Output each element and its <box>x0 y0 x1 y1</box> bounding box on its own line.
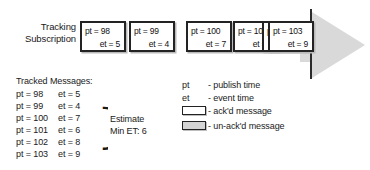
estimate-annotation: Estimate Min ET: 6 <box>110 113 147 137</box>
tracked-publish-time: pt = 100 <box>16 112 58 124</box>
tracked-event-time: et = 7 <box>58 112 94 124</box>
message-event-time: et = 7 <box>191 38 227 52</box>
tracked-message-row: pt = 100et = 7 <box>16 112 94 124</box>
estimate-brace-icon: } <box>97 103 108 150</box>
message-box: pt = 100 et = 7 <box>186 21 232 52</box>
legend-row-ackd: - ack'd message <box>182 105 284 120</box>
message-box: pt = 99 et = 4 <box>129 21 175 52</box>
tracked-event-time: et = 5 <box>58 88 94 100</box>
legend-desc-pt: - publish time <box>208 79 260 91</box>
message-event-time: et = 5 <box>85 38 121 52</box>
tracked-message-row: pt = 103et = 9 <box>16 148 94 160</box>
tracked-message-row: pt = 98et = 5 <box>16 88 94 100</box>
estimate-label: Estimate <box>110 113 147 125</box>
message-event-time: et = 4 <box>134 38 170 52</box>
estimate-value: Min ET: 6 <box>110 125 147 137</box>
legend-key-et: et <box>182 92 208 104</box>
message-box: pt = 98 et = 5 <box>80 21 126 52</box>
tracked-message-row: pt = 102et = 8 <box>16 136 94 148</box>
legend-row-et: et- event time <box>182 92 284 105</box>
message-publish-time: pt = 100 <box>191 25 227 39</box>
legend-key-pt: pt <box>182 79 208 91</box>
legend-desc-ackd: - ack'd message <box>208 105 272 117</box>
legend-desc-unackd: - un-ack'd message <box>208 120 284 132</box>
tracked-message-row: pt = 99et = 4 <box>16 100 94 112</box>
tracked-event-time: et = 6 <box>58 124 94 136</box>
tracked-event-time: et = 8 <box>58 136 94 148</box>
tracked-publish-time: pt = 101 <box>16 124 58 136</box>
tracking-label-line1: Tracking <box>10 21 76 33</box>
tracking-subscription-label: Tracking Subscription <box>10 21 76 44</box>
tracked-publish-time: pt = 98 <box>16 88 58 100</box>
legend-row-pt: pt- publish time <box>182 79 284 92</box>
message-publish-time: pt = 103 <box>273 25 309 39</box>
message-publish-time: pt = 98 <box>85 25 121 39</box>
tracked-publish-time: pt = 99 <box>16 100 58 112</box>
legend: pt- publish time et- event time - ack'd … <box>182 79 284 135</box>
unackd-message-swatch-icon <box>182 121 206 130</box>
tracked-event-time: et = 4 <box>58 100 94 112</box>
timeline-arrow-icon <box>312 12 365 78</box>
timeline-row: Tracking Subscription pt = 98 et = 5 pt … <box>0 0 370 86</box>
message-box: pt = 103 et = 9 <box>268 21 314 52</box>
tracking-subscription-diagram: Tracking Subscription pt = 98 et = 5 pt … <box>0 0 370 170</box>
tracked-publish-time: pt = 103 <box>16 148 58 160</box>
tracked-messages-list: Tracked Messages: pt = 98et = 5 pt = 99e… <box>16 75 94 160</box>
tracking-label-line2: Subscription <box>10 33 76 45</box>
tracked-publish-time: pt = 102 <box>16 136 58 148</box>
legend-desc-et: - event time <box>208 92 254 104</box>
legend-row-unackd: - un-ack'd message <box>182 120 284 135</box>
tracked-message-row: pt = 101et = 6 <box>16 124 94 136</box>
tracked-event-time: et = 9 <box>58 148 94 160</box>
ackd-message-swatch-icon <box>182 106 206 115</box>
message-event-time: et = 9 <box>273 38 309 52</box>
message-publish-time: pt = 99 <box>134 25 170 39</box>
tracked-messages-title: Tracked Messages: <box>16 75 94 87</box>
